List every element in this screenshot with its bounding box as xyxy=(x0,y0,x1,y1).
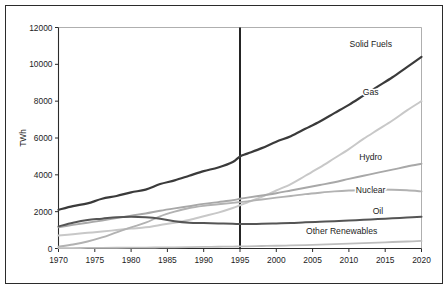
x-tick-label: 1995 xyxy=(231,255,250,265)
x-tick-label: 2020 xyxy=(412,255,431,265)
series-label-group-other-renewables: Other RenewablesOther Renewables xyxy=(306,226,377,236)
x-tick-label: 1980 xyxy=(122,255,141,265)
y-tick-label: 6000 xyxy=(34,133,53,143)
y-tick-label: 2000 xyxy=(34,207,53,217)
series-label-group-gas: GasGas xyxy=(363,87,379,97)
series-label-group-hydro: HydroHydro xyxy=(359,152,382,162)
series-label-solid-fuels: Solid Fuels xyxy=(349,39,392,49)
chart-figure: 0200040006000800010000120001970197519801… xyxy=(0,0,448,289)
y-tick-label: 0 xyxy=(48,244,53,254)
chart-canvas: 0200040006000800010000120001970197519801… xyxy=(0,0,448,289)
x-tick-label: 1990 xyxy=(194,255,213,265)
x-tick-label: 2005 xyxy=(303,255,322,265)
x-tick-label: 2015 xyxy=(376,255,395,265)
y-tick-label: 12000 xyxy=(29,23,53,33)
y-axis-title: TWh xyxy=(18,129,28,147)
x-tick-label: 1975 xyxy=(85,255,104,265)
series-label-nuclear: Nuclear xyxy=(356,185,386,195)
x-tick-label: 1985 xyxy=(158,255,177,265)
series-label-group-solid-fuels: Solid FuelsSolid Fuels xyxy=(349,39,392,49)
series-label-other-renewables: Other Renewables xyxy=(306,226,377,236)
series-label-group-oil: OilOil xyxy=(373,206,384,216)
series-label-hydro: Hydro xyxy=(359,152,382,162)
y-tick-label: 4000 xyxy=(34,170,53,180)
series-label-gas: Gas xyxy=(363,87,379,97)
y-tick-label: 8000 xyxy=(34,96,53,106)
series-label-group-nuclear: NuclearNuclear xyxy=(356,185,386,195)
x-tick-label: 2010 xyxy=(340,255,359,265)
x-tick-label: 1970 xyxy=(49,255,68,265)
series-label-oil: Oil xyxy=(373,206,384,216)
y-tick-label: 10000 xyxy=(29,59,53,69)
x-tick-label: 2000 xyxy=(267,255,286,265)
